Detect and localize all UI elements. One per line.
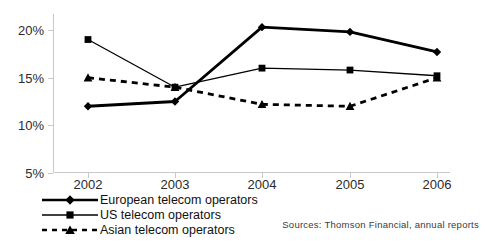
x-tick-label: 2002 — [74, 177, 103, 192]
x-tick-label: 2004 — [248, 177, 277, 192]
legend-item-us: US telecom operators — [40, 207, 290, 222]
y-tick-label: 10% — [18, 118, 44, 133]
legend-key-square-icon — [40, 208, 100, 222]
legend-item-european: European telecom operators — [40, 192, 290, 207]
legend-label-us: US telecom operators — [100, 208, 221, 222]
legend-label-asian: Asian telecom operators — [100, 223, 235, 237]
legend-item-asian: Asian telecom operators — [40, 222, 290, 237]
legend-label-european: European telecom operators — [100, 193, 258, 207]
plot-area: 5%10%15%20% 20022003200420052006 — [53, 14, 450, 173]
y-tick-label: 15% — [18, 70, 44, 85]
y-tick-mark — [48, 125, 53, 126]
x-tick-label: 2006 — [423, 177, 452, 192]
source-note: Sources: Thomson Financial, annual repor… — [282, 219, 479, 230]
y-tick-mark — [48, 78, 53, 79]
y-tick-mark — [48, 30, 53, 31]
y-axis-line — [53, 14, 54, 173]
y-tick-mark — [48, 173, 53, 174]
legend-key-diamond-icon — [40, 193, 100, 207]
x-tick-label: 2005 — [336, 177, 365, 192]
chart-container: 5%10%15%20% 20022003200420052006 Europea… — [0, 0, 485, 245]
y-tick-label: 5% — [25, 166, 44, 181]
x-tick-label: 2003 — [161, 177, 190, 192]
y-tick-label: 20% — [18, 23, 44, 38]
x-axis-line — [53, 172, 450, 173]
chart-legend: European telecom operators US telecom op… — [40, 192, 290, 237]
legend-key-triangle-icon — [40, 223, 100, 237]
